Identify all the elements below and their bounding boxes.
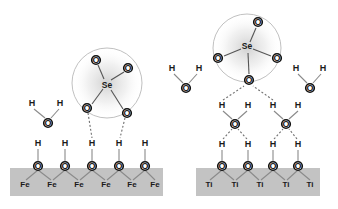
water-oxygen-label: O bbox=[282, 119, 289, 129]
ti-label: Ti bbox=[307, 180, 314, 189]
selenite-oxygen-label: O bbox=[83, 103, 90, 113]
oxygen-label: O bbox=[218, 161, 225, 171]
selenium-label: Se bbox=[102, 80, 113, 90]
ti-label: Ti bbox=[257, 180, 264, 189]
water-hydrogen-label: H bbox=[29, 98, 36, 108]
molecular-diagram: Fe Fe Fe Fe Fe Fe O O O O O bbox=[0, 0, 338, 209]
selenite-oxygen-label: O bbox=[273, 53, 280, 63]
water-hydrogen-label: H bbox=[270, 100, 277, 110]
left-panel: Fe Fe Fe Fe Fe Fe O O O O O bbox=[10, 48, 163, 196]
hydrogen-label: H bbox=[35, 138, 42, 148]
water-oxygen-label: O bbox=[231, 119, 238, 129]
hydrogen-label: H bbox=[219, 139, 226, 149]
oxygen-label: O bbox=[88, 161, 95, 171]
hydrogen-label: H bbox=[245, 139, 252, 149]
oxygen-label: O bbox=[294, 161, 301, 171]
water-hydrogen-label: H bbox=[320, 63, 327, 73]
ti-label: Ti bbox=[232, 180, 239, 189]
water-oxygen-label: O bbox=[306, 83, 313, 93]
figure-canvas: Fe Fe Fe Fe Fe Fe O O O O O bbox=[0, 0, 338, 209]
fe-label: Fe bbox=[47, 180, 57, 189]
selenite-oxygen-label: O bbox=[254, 17, 261, 27]
selenite-oxygen-label: O bbox=[245, 75, 252, 85]
ti-bridging-water-molecules: O O H H H H bbox=[219, 100, 302, 129]
ti-lower-hydrogen-bonds bbox=[223, 129, 297, 139]
ti-upper-hydrogen-bonds bbox=[223, 86, 273, 100]
fe-substrate-slab bbox=[10, 168, 163, 196]
ti-label: Ti bbox=[283, 180, 290, 189]
oxygen-label: O bbox=[269, 161, 276, 171]
oxygen-label: O bbox=[34, 161, 41, 171]
fe-label: Fe bbox=[127, 180, 137, 189]
fe-surface-hydroxyl-bonds bbox=[38, 149, 145, 161]
ti-surface-hydrogen-atoms: H H H H bbox=[219, 139, 302, 149]
selenite-oxygen-label: O bbox=[92, 55, 99, 65]
fe-label: Fe bbox=[101, 180, 111, 189]
fe-label: Fe bbox=[150, 180, 160, 189]
hydrogen-label: H bbox=[116, 138, 123, 148]
hydrogen-label: H bbox=[270, 139, 277, 149]
selenium-label: Se bbox=[242, 41, 253, 51]
selenite-oxygen-label: O bbox=[124, 63, 131, 73]
selenite-oxygen-label: O bbox=[214, 53, 221, 63]
water-oxygen-label: O bbox=[44, 118, 51, 128]
water-oxygen-label: O bbox=[182, 83, 189, 93]
fe-label: Fe bbox=[74, 180, 84, 189]
water-hydrogen-label: H bbox=[219, 100, 226, 110]
water-hydrogen-label: H bbox=[293, 63, 300, 73]
oxygen-label: O bbox=[61, 161, 68, 171]
ti-label: Ti bbox=[206, 180, 213, 189]
ti-bridging-water-bonds bbox=[223, 111, 298, 119]
oxygen-label: O bbox=[115, 161, 122, 171]
water-hydrogen-label: H bbox=[57, 98, 64, 108]
right-panel: Ti Ti Ti Ti Ti O O O O H H H bbox=[169, 14, 327, 196]
ti-surface-hydroxyl-bonds bbox=[222, 150, 298, 161]
hydrogen-label: H bbox=[89, 138, 96, 148]
hydrogen-label: H bbox=[142, 138, 149, 148]
fe-label: Fe bbox=[20, 180, 30, 189]
hydrogen-label: H bbox=[295, 139, 302, 149]
water-hydrogen-label: H bbox=[295, 100, 302, 110]
water-hydrogen-label: H bbox=[245, 100, 252, 110]
fe-surface-hydrogen-atoms: H H H H H bbox=[35, 138, 149, 148]
oxygen-label: O bbox=[141, 161, 148, 171]
hydrogen-label: H bbox=[62, 138, 69, 148]
left-water-bonds bbox=[34, 109, 59, 118]
oxygen-label: O bbox=[244, 161, 251, 171]
water-hydrogen-label: H bbox=[169, 63, 176, 73]
left-water-molecule: O H H bbox=[29, 98, 64, 128]
water-hydrogen-label: H bbox=[196, 63, 203, 73]
selenite-oxygen-label: O bbox=[123, 108, 130, 118]
